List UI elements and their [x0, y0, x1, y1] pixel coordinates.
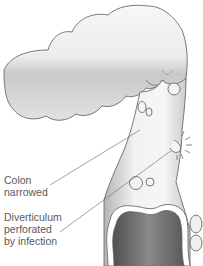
diverticulum [146, 108, 152, 116]
external-pouch [190, 235, 202, 251]
colon-lumen [113, 210, 184, 266]
diverticulum [168, 83, 180, 95]
label-colon-narrowed: Colon narrowed [4, 174, 48, 198]
diverticulum [130, 177, 143, 190]
label-line: narrowed [4, 186, 48, 198]
label-line: by infection [4, 235, 62, 247]
label-line: Diverticulum [4, 211, 62, 223]
diverticulum [146, 178, 154, 186]
diverticulum [138, 102, 146, 113]
label-line: perforated [4, 223, 62, 235]
external-pouch [190, 215, 202, 233]
label-diverticulum-perforated: Diverticulum perforated by infection [4, 211, 62, 247]
label-line: Colon [4, 174, 48, 186]
